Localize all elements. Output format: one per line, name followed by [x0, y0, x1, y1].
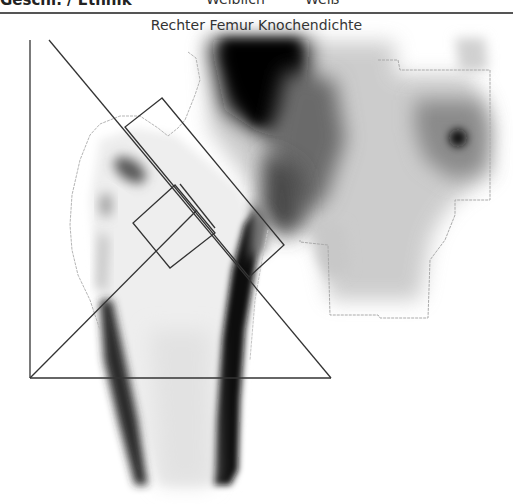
femur-bone: [90, 128, 270, 485]
dxa-scan-image: [0, 0, 513, 504]
